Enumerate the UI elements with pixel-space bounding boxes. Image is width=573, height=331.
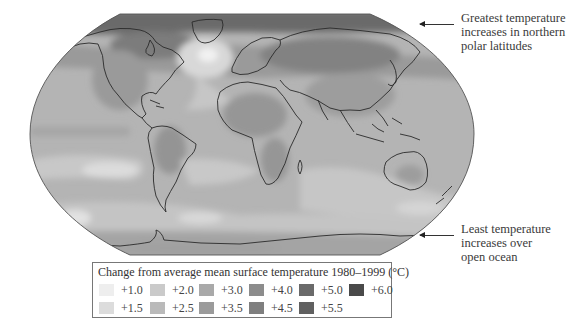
legend-label: +1.0 — [121, 283, 143, 298]
legend-swatch — [199, 284, 214, 296]
annotation-line: open ocean — [461, 250, 551, 264]
legend-item: +1.0 — [99, 283, 143, 297]
legend-swatch — [199, 302, 214, 314]
legend-swatch — [299, 284, 314, 296]
legend-item: +5.5 — [299, 301, 343, 315]
legend-swatch — [249, 302, 264, 314]
legend-swatch — [349, 284, 364, 296]
legend-item: +6.0 — [349, 283, 393, 297]
legend-item: +1.5 — [99, 301, 143, 315]
legend-label: +1.5 — [121, 301, 143, 316]
legend-item: +2.5 — [150, 301, 194, 315]
annotation-line: polar latitudes — [461, 39, 565, 53]
legend-label: +5.5 — [321, 301, 343, 316]
caption-fragment — [145, 322, 345, 328]
legend-item: +3.5 — [199, 301, 243, 315]
legend-swatch — [150, 284, 165, 296]
legend-swatch — [99, 284, 114, 296]
legend-label: +4.5 — [271, 301, 293, 316]
legend-item: +3.0 — [199, 283, 243, 297]
legend-swatch — [150, 302, 165, 314]
legend-label: +4.0 — [271, 283, 293, 298]
legend-swatch — [99, 302, 114, 314]
annotation-line: Least temperature — [461, 222, 551, 236]
legend-label: +2.5 — [172, 301, 194, 316]
annotation-line: Greatest temperature — [461, 11, 565, 25]
legend-item: +4.0 — [249, 283, 293, 297]
legend-item: +4.5 — [249, 301, 293, 315]
legend-label: +2.0 — [172, 283, 194, 298]
annotation-northern-polar: Greatest temperature increases in northe… — [461, 11, 565, 53]
legend: Change from average mean surface tempera… — [92, 262, 392, 318]
annotation-open-ocean: Least temperature increases over open oc… — [461, 222, 551, 264]
annotation-line: increases over — [461, 236, 551, 250]
legend-item: +5.0 — [299, 283, 343, 297]
left-arrow-icon — [420, 235, 454, 236]
legend-label: +6.0 — [371, 283, 393, 298]
legend-label: +5.0 — [321, 283, 343, 298]
left-arrow-icon — [420, 24, 454, 25]
legend-swatch — [249, 284, 264, 296]
legend-title: Change from average mean surface tempera… — [98, 265, 409, 280]
legend-label: +3.5 — [221, 301, 243, 316]
annotation-line: increases in northern — [461, 25, 565, 39]
legend-swatch — [299, 302, 314, 314]
legend-label: +3.0 — [221, 283, 243, 298]
legend-item: +2.0 — [150, 283, 194, 297]
